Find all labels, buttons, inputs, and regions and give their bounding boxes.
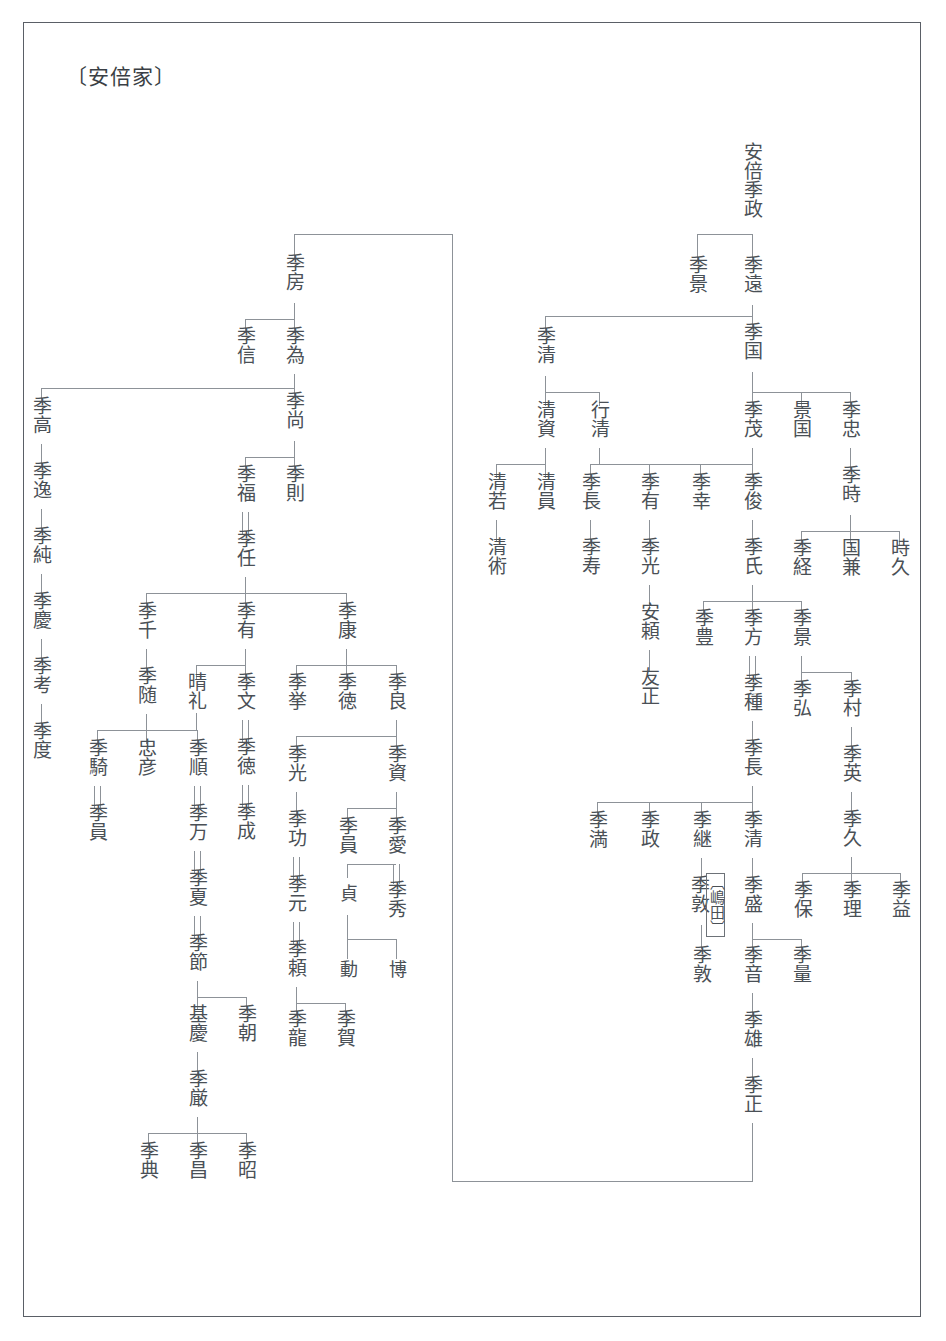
node-suejun2: 季順 [187,738,206,776]
connector [545,376,546,392]
connector [545,316,753,317]
node-suenaga2: 季長 [580,472,599,510]
node-kiyojutsu: 清術 [486,537,505,575]
node-suetomo: 季朝 [236,1004,255,1042]
node-suemasa-tada2: 季正 [742,1075,761,1113]
node-suetoku2: 季徳 [336,672,355,710]
connector [752,448,753,464]
connector [545,448,546,464]
node-suetou: 季任 [235,529,254,567]
connector [346,649,347,665]
node-suedo: 季度 [31,721,50,759]
node-suekei: 季慶 [31,591,50,629]
node-suehisa2: 季寿 [580,537,599,575]
connector [296,1003,345,1004]
node-suekou2: 季功 [286,809,305,847]
connector [347,864,396,865]
connector [347,939,348,959]
node-kiyokazu: 清員 [535,472,554,510]
node-suemori: 季盛 [742,875,761,913]
shimada-box-label: 〔嶋田〕 [706,873,725,937]
node-sueshige: 季茂 [742,400,761,438]
node-sueryu: 季龍 [286,1009,305,1047]
node-suetame: 季為 [284,326,303,364]
node-hareirei: 晴礼 [186,672,205,710]
connector [752,786,753,802]
node-sueyasu2: 季康 [336,601,355,639]
node-suemura: 季村 [841,679,860,717]
connector [347,808,397,809]
connector [197,1117,198,1133]
node-sueoto: 季音 [742,945,761,983]
node-sueman: 季万 [187,803,206,841]
node-suehide: 季英 [841,744,860,782]
node-sueshu: 季秀 [386,880,405,918]
node-kiyosuke: 清資 [535,400,554,438]
genealogy-chart-page: 〔安倍家〕 安倍季政 季景 季遠 季国 季清 季茂 景国 季忠 季時 季経 国兼… [0,0,946,1341]
node-suesetsu: 季節 [187,933,206,971]
node-suekage: 季景 [687,255,706,293]
node-suegen: 季元 [286,874,305,912]
node-suemasu: 季益 [890,880,909,918]
node-suetada: 季忠 [840,400,859,438]
connector [347,915,348,939]
connector [752,585,753,601]
connector [296,987,297,1003]
node-suemitsuru: 季満 [587,810,606,848]
connector [452,234,453,1182]
node-suekyo: 季挙 [286,672,305,710]
node-suega: 季賀 [335,1009,354,1047]
connector [752,939,801,940]
node-sueki: 季騎 [87,738,106,776]
node-suetoki: 季時 [840,465,859,503]
connector [347,939,396,940]
node-yukikiyo: 行清 [589,400,608,438]
node-suemasa2: 季昌 [187,1141,206,1179]
connector [752,1123,753,1181]
node-suekou: 季考 [31,656,50,694]
connector [196,713,197,731]
node-suekiyo: 季清 [742,810,761,848]
node-yasuyori: 安頼 [639,602,658,640]
connector [245,319,295,320]
connector [146,714,147,730]
node-sueari: 季有 [639,472,658,510]
node-suesuke: 季資 [386,744,405,782]
node-suesachi: 季幸 [690,472,709,510]
node-sueuji: 季氏 [742,537,761,575]
connector [296,736,397,737]
connector [801,656,802,672]
connector [396,939,397,959]
node-suekata: 季方 [742,608,761,646]
node-suetane: 季種 [742,673,761,711]
node-suenatsu: 季夏 [187,868,206,906]
connector [294,303,295,319]
node-sueto: 季遠 [742,255,761,293]
connector [294,234,453,235]
chart-title: 〔安倍家〕 [66,60,176,90]
connector [245,649,246,665]
node-suemitsu2: 季光 [286,744,305,782]
node-suenari: 季成 [235,802,254,840]
node-sueaki: 季昭 [236,1141,255,1179]
node-suenaga: 季長 [742,738,761,776]
node-kagekuni: 景国 [791,400,810,438]
connector [146,593,346,594]
node-tokihisa: 時久 [889,538,908,576]
node-tei: 貞 [338,884,356,902]
connector [347,864,348,878]
node-haku: 博 [387,960,405,978]
connector [752,372,753,392]
connector [396,792,397,808]
node-suehiro: 季弘 [791,679,810,717]
node-suefuku: 季福 [235,464,254,502]
node-sueyoshi: 季良 [386,672,405,710]
node-tadahiko: 忠彦 [136,738,155,776]
node-suetoku: 季徳 [235,737,254,775]
node-dou: 動 [338,960,356,978]
connector [245,577,246,593]
node-suenobu: 季信 [235,326,254,364]
connector [496,464,546,465]
node-tomomasa: 友正 [639,667,658,705]
connector [197,981,198,997]
